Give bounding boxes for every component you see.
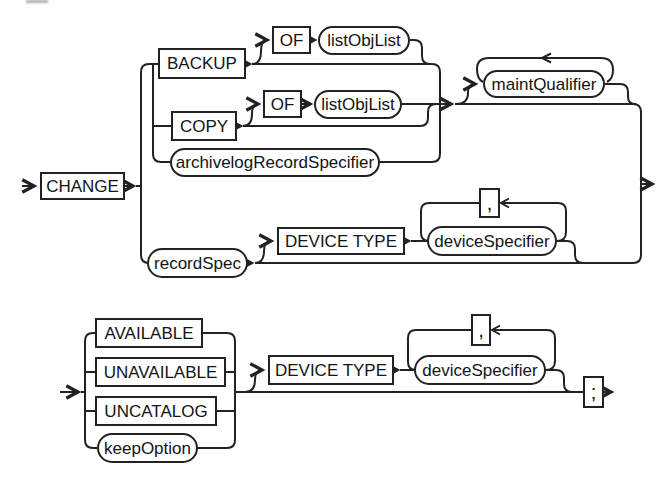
node-unavailable: UNAVAILABLE: [95, 357, 226, 387]
node-backup: BACKUP: [158, 48, 246, 79]
node-device-type-1: DEVICE TYPE: [277, 227, 405, 255]
node-keep-option: keepOption: [97, 433, 198, 463]
node-comma-2: ,: [471, 314, 491, 346]
node-available: AVAILABLE: [95, 318, 203, 348]
node-backup-listobjlist: listObjList: [318, 26, 410, 55]
node-maint-qualifier: maintQualifier: [483, 70, 605, 98]
node-device-specifier-2: deviceSpecifier: [414, 355, 546, 385]
node-comma-1: ,: [479, 188, 500, 218]
node-change: CHANGE: [40, 172, 125, 200]
node-semicolon: ;: [583, 376, 604, 408]
node-device-specifier-1: deviceSpecifier: [427, 226, 557, 256]
node-archivelog-record-specifier: archivelogRecordSpecifier: [170, 148, 380, 177]
scan-artifact: [26, 0, 48, 3]
node-record-spec: recordSpec: [147, 248, 248, 278]
node-uncatalog: UNCATALOG: [95, 396, 217, 426]
node-device-type-2: DEVICE TYPE: [268, 355, 394, 385]
node-copy: COPY: [171, 111, 237, 141]
node-copy-listobjlist: listObjList: [314, 90, 402, 119]
node-backup-of: OF: [272, 26, 311, 54]
syntax-diagram-page: CHANGE BACKUP OF listObjList COPY OF lis…: [0, 0, 672, 493]
node-copy-of: OF: [263, 90, 302, 118]
